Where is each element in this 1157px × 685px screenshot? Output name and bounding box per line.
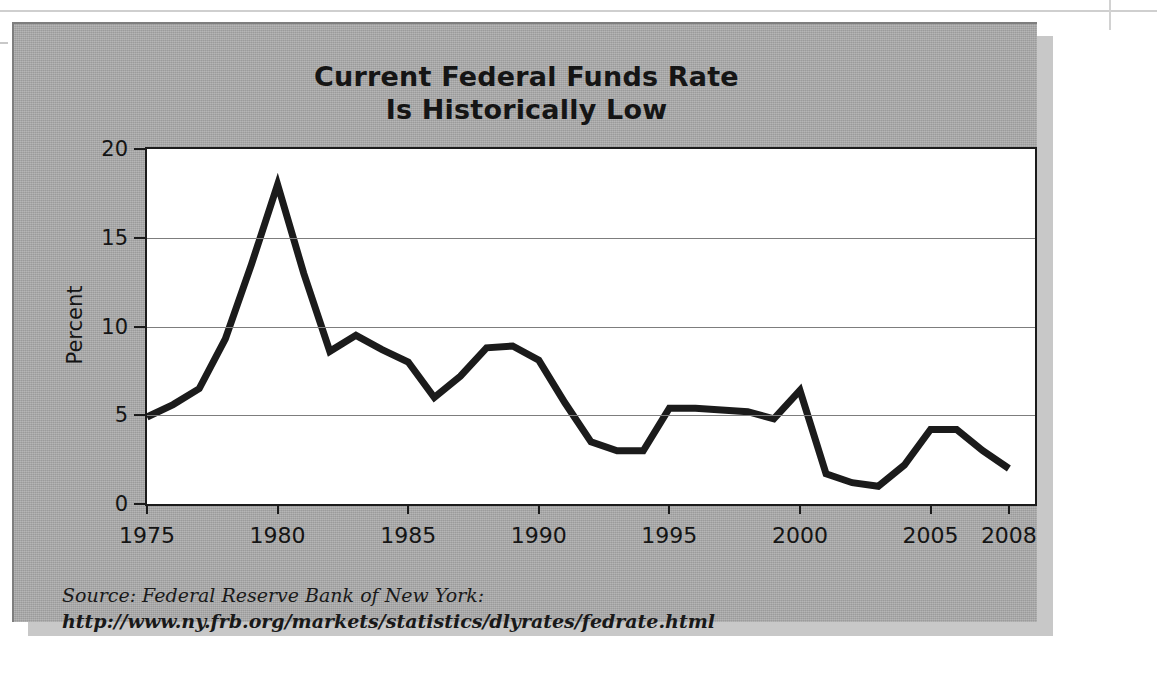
y-tick-mark-15 (134, 237, 145, 239)
gridline-y-15 (147, 238, 1035, 239)
plot-area-wrapper: 0510152019751980198519901995200020052008 (145, 147, 1037, 506)
x-tick-label-1985: 1985 (380, 523, 436, 548)
y-tick-mark-20 (134, 148, 145, 150)
page-top-rule (0, 10, 1157, 12)
x-tick-mark-2000 (799, 504, 801, 514)
x-tick-mark-1975 (146, 504, 148, 514)
source-attribution: Source: Federal Reserve Bank of New York… (62, 582, 1002, 608)
y-tick-mark-5 (134, 414, 145, 416)
y-tick-label-20: 20 (101, 137, 128, 161)
x-tick-label-2008: 2008 (981, 523, 1037, 548)
y-tick-mark-0 (134, 503, 145, 505)
plot-area: 0510152019751980198519901995200020052008 (145, 147, 1037, 506)
y-tick-label-0: 0 (115, 492, 128, 516)
x-tick-mark-1995 (668, 504, 670, 514)
source-url: http://www.ny.frb.org/markets/statistics… (62, 608, 1002, 634)
chart-title-line-2: Is Historically Low (14, 93, 1039, 126)
x-tick-mark-1985 (407, 504, 409, 514)
x-tick-label-1975: 1975 (119, 523, 175, 548)
y-tick-label-5: 5 (115, 403, 128, 427)
x-tick-label-1990: 1990 (511, 523, 567, 548)
source-note: Source: Federal Reserve Bank of New York… (62, 582, 1002, 634)
gridline-y-10 (147, 327, 1035, 328)
x-tick-mark-2008 (1008, 504, 1010, 514)
chart-title: Current Federal Funds Rate Is Historical… (14, 60, 1039, 126)
x-tick-mark-1980 (277, 504, 279, 514)
page-left-tick (0, 42, 8, 44)
y-tick-mark-10 (134, 326, 145, 328)
x-tick-label-1980: 1980 (250, 523, 306, 548)
y-axis-title: Percent (62, 147, 88, 502)
figure-page: Current Federal Funds Rate Is Historical… (0, 0, 1157, 685)
x-tick-label-1995: 1995 (641, 523, 697, 548)
chart-title-line-1: Current Federal Funds Rate (314, 61, 739, 92)
x-tick-mark-2005 (930, 504, 932, 514)
chart-figure: Current Federal Funds Rate Is Historical… (12, 22, 1037, 622)
gridline-y-5 (147, 415, 1035, 416)
y-axis-title-text: Percent (63, 285, 87, 364)
page-right-rule (1109, 0, 1111, 30)
x-tick-mark-1990 (538, 504, 540, 514)
y-tick-label-10: 10 (101, 315, 128, 339)
x-tick-label-2005: 2005 (903, 523, 959, 548)
y-tick-label-15: 15 (101, 226, 128, 250)
x-tick-label-2000: 2000 (772, 523, 828, 548)
